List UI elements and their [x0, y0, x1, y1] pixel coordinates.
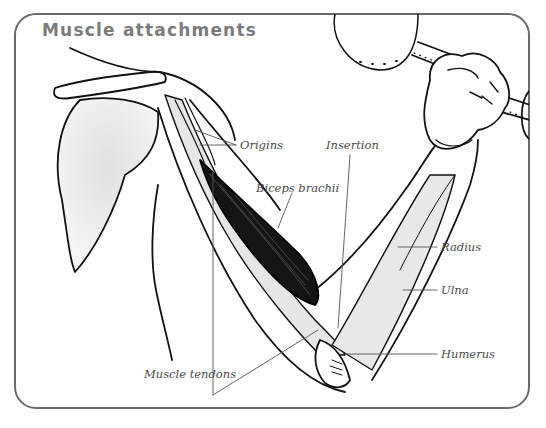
scapula — [58, 98, 159, 272]
label-insertion: Insertion — [326, 138, 379, 152]
fist — [424, 53, 509, 148]
label-radius: Radius — [441, 240, 481, 254]
forearm-bones — [332, 175, 455, 370]
label-origins: Origins — [240, 138, 283, 152]
label-ulna: Ulna — [441, 283, 469, 297]
label-biceps-brachii: Biceps brachii — [256, 181, 339, 195]
label-humerus: Humerus — [441, 347, 495, 361]
label-muscle-tendons: Muscle tendons — [144, 367, 236, 381]
arm-illustration — [0, 0, 546, 428]
